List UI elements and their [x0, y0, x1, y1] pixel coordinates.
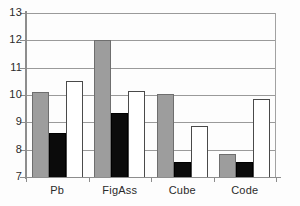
x-tick-mark: [89, 177, 90, 182]
bar-code-black: [236, 162, 253, 177]
x-tick-mark: [276, 177, 277, 182]
y-tick-label: 7: [2, 171, 22, 182]
bar-pb-black: [49, 133, 66, 177]
y-tick-label: 11: [2, 62, 22, 73]
x-axis-line: [25, 177, 281, 178]
x-tick-mark: [151, 177, 152, 182]
bar-figass-gray: [94, 40, 111, 177]
y-tick-label: 12: [2, 34, 22, 45]
gridline: [26, 68, 276, 69]
bar-code-gray: [219, 154, 236, 177]
y-axis-line: [25, 11, 27, 179]
bar-figass-white: [128, 91, 145, 177]
bar-cube-white: [191, 126, 208, 177]
y-tick-label: 9: [2, 116, 22, 127]
x-tick-mark: [26, 177, 27, 182]
gridline: [26, 95, 276, 96]
y-tick-label: 13: [2, 7, 22, 18]
bar-pb-gray: [32, 92, 49, 177]
gridline: [26, 13, 276, 14]
bar-pb-white: [66, 81, 83, 177]
gridline: [26, 40, 276, 41]
x-group-label-code: Code: [205, 184, 285, 196]
bar-cube-gray: [157, 94, 174, 177]
bar-code-white: [253, 99, 270, 177]
y-tick-label: 10: [2, 89, 22, 100]
x-tick-mark: [214, 177, 215, 182]
gridline: [26, 122, 276, 123]
y-tick-label: 8: [2, 144, 22, 155]
bar-chart: 78910111213 PbFigAssCubeCode: [0, 0, 300, 206]
bar-figass-black: [111, 113, 128, 177]
bar-cube-black: [174, 162, 191, 177]
plot-right-border: [275, 13, 276, 177]
